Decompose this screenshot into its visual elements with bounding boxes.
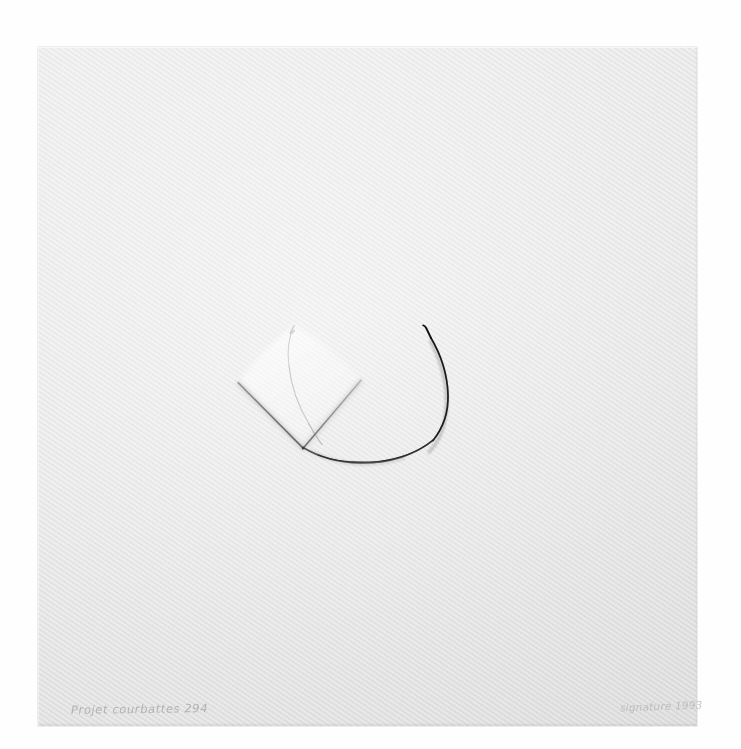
artwork-canvas: Projet courbattes 294 signature 1993 <box>0 0 741 749</box>
paper-edge-shading <box>38 47 697 726</box>
paper-sheet <box>38 47 697 726</box>
paper-cross-texture <box>38 47 697 726</box>
paper-weave-texture <box>38 47 697 726</box>
title-inscription: Projet courbattes 294 <box>71 701 208 717</box>
paper-lighting-overlay <box>38 47 697 726</box>
